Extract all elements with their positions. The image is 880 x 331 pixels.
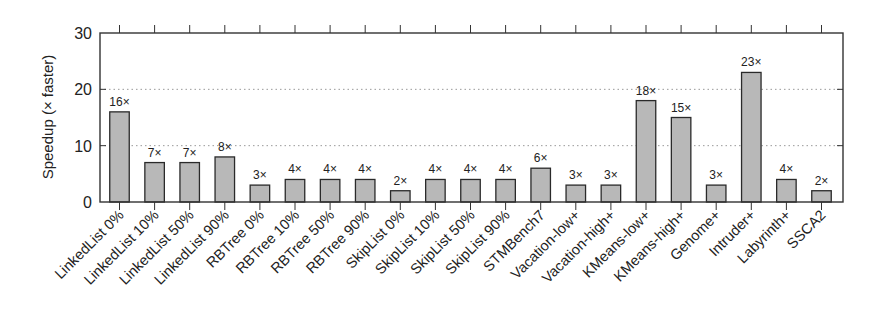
- bar: [250, 185, 270, 202]
- y-axis-label: Speedup (× faster): [39, 55, 56, 180]
- bar-value-label: 18×: [636, 84, 656, 98]
- bar: [355, 179, 375, 202]
- y-tick-label: 0: [83, 194, 92, 211]
- bar: [426, 179, 446, 202]
- bar: [215, 157, 235, 202]
- bar-value-label: 23×: [741, 55, 761, 69]
- bar: [601, 185, 621, 202]
- x-axis: LinkedList 0%LinkedList 10%LinkedList 50…: [51, 25, 828, 288]
- plot-frame: [100, 33, 843, 202]
- bar-value-label: 4×: [464, 162, 478, 176]
- bar: [110, 112, 130, 202]
- bar-value-label: 3×: [253, 168, 267, 182]
- plot-border: [100, 33, 843, 202]
- bar: [531, 168, 551, 202]
- bar-value-label: 2×: [393, 174, 407, 188]
- bar-value-label: 15×: [671, 101, 691, 115]
- bar-value-label: 7×: [148, 146, 162, 160]
- bar: [320, 179, 340, 202]
- bar-value-label: 4×: [429, 162, 443, 176]
- y-tick-label: 30: [74, 25, 92, 42]
- bar: [180, 163, 200, 202]
- bar-value-label: 4×: [499, 162, 513, 176]
- bar: [742, 72, 762, 202]
- bar: [636, 101, 656, 202]
- bar: [285, 179, 305, 202]
- bar: [777, 179, 797, 202]
- bar: [812, 191, 832, 202]
- bar: [566, 185, 586, 202]
- bar-value-label: 6×: [534, 151, 548, 165]
- bar: [671, 118, 691, 203]
- bar-value-label: 4×: [288, 162, 302, 176]
- bars: 16×7×7×8×3×4×4×4×2×4×4×4×6×3×3×18×15×3×2…: [109, 55, 831, 202]
- bar: [145, 163, 165, 202]
- bar-value-label: 3×: [709, 168, 723, 182]
- y-tick-label: 20: [74, 81, 92, 98]
- bar-value-label: 16×: [109, 95, 129, 109]
- bar-value-label: 4×: [323, 162, 337, 176]
- x-tick-label: SSCA2: [784, 207, 829, 252]
- bar-value-label: 8×: [218, 140, 232, 154]
- bar: [391, 191, 411, 202]
- bar: [706, 185, 726, 202]
- bar: [461, 179, 481, 202]
- speedup-bar-chart: 16×7×7×8×3×4×4×4×2×4×4×4×6×3×3×18×15×3×2…: [0, 0, 880, 331]
- chart-canvas: 16×7×7×8×3×4×4×4×2×4×4×4×6×3×3×18×15×3×2…: [0, 0, 880, 331]
- gridlines: [100, 89, 843, 145]
- bar-value-label: 3×: [604, 168, 618, 182]
- bar-value-label: 3×: [569, 168, 583, 182]
- bar-value-label: 7×: [183, 146, 197, 160]
- bar-value-label: 4×: [358, 162, 372, 176]
- y-tick-label: 10: [74, 138, 92, 155]
- bar-value-label: 4×: [780, 162, 794, 176]
- bar-value-label: 2×: [815, 174, 829, 188]
- bar: [496, 179, 515, 202]
